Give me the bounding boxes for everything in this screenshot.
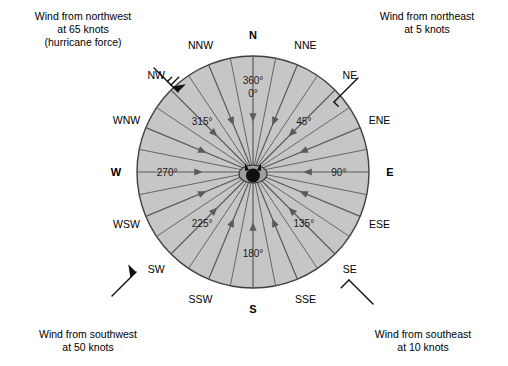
compass-label-n: N bbox=[249, 29, 257, 41]
degree-label-360deg: 360° bbox=[243, 75, 264, 86]
example-note-northeast: Wind from northeast at 5 knots bbox=[352, 10, 502, 36]
degree-label-180deg: 180° bbox=[243, 248, 264, 259]
barb-southwest bbox=[112, 264, 136, 296]
compass-label-se: SE bbox=[343, 263, 357, 275]
barb-northeast-shaft bbox=[334, 78, 358, 102]
degree-label-270deg: 270° bbox=[157, 167, 178, 178]
degree-label-0deg: 0° bbox=[248, 88, 258, 99]
compass-label-ese: ESE bbox=[369, 218, 390, 230]
barb-southeast bbox=[341, 280, 373, 304]
compass-label-w: W bbox=[111, 166, 121, 178]
compass-label-wsw: WSW bbox=[113, 218, 140, 230]
barb-southeast-full-barb bbox=[341, 280, 349, 288]
compass-label-wnw: WNW bbox=[113, 114, 140, 126]
compass-label-ne: NE bbox=[343, 69, 358, 81]
degree-label-90deg: 90° bbox=[331, 167, 346, 178]
degree-label-45deg: 45° bbox=[296, 116, 311, 127]
example-note-southeast: Wind from southeast at 10 knots bbox=[344, 328, 502, 354]
degree-label-225deg: 225° bbox=[192, 217, 213, 228]
degree-label-315deg: 315° bbox=[192, 116, 213, 127]
barb-northwest-half-barb bbox=[167, 77, 171, 81]
compass-label-ene: ENE bbox=[369, 114, 391, 126]
station-circle-core bbox=[246, 169, 260, 183]
compass-label-e: E bbox=[386, 166, 393, 178]
barb-southeast-shaft bbox=[349, 280, 373, 304]
degree-label-135deg: 135° bbox=[294, 217, 315, 228]
example-note-southwest: Wind from southwest at 50 knots bbox=[8, 328, 168, 354]
compass-label-ssw: SSW bbox=[189, 293, 213, 305]
barb-southwest-pennant bbox=[128, 264, 136, 277]
compass-label-nw: NW bbox=[147, 69, 165, 81]
example-note-northwest: Wind from northwest at 65 knots (hurrica… bbox=[8, 10, 158, 49]
compass-label-s: S bbox=[249, 303, 256, 315]
compass-label-nne: NNE bbox=[294, 39, 316, 51]
compass-label-sw: SW bbox=[148, 263, 165, 275]
wind-rose-figure: Wind from northwest at 65 knots (hurrica… bbox=[0, 0, 508, 366]
compass-label-nnw: NNW bbox=[188, 39, 213, 51]
compass-label-sse: SSE bbox=[295, 293, 316, 305]
